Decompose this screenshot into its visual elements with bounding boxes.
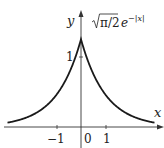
formula-label: π/2 e −|x|: [92, 14, 145, 30]
y-axis-label: y: [66, 13, 75, 28]
formula-sqrt-content: π/2: [100, 16, 120, 30]
x-tick-label-neg1: −1: [47, 132, 65, 146]
x-axis-arrow-icon: [157, 125, 164, 130]
formula-exp-power: −|x|: [128, 14, 145, 23]
x-tick-label-0: 0: [84, 132, 92, 146]
chart-canvas: y x 1 −1 0 1 π/2 e −|x|: [0, 0, 164, 148]
x-tick-label-1: 1: [103, 132, 111, 146]
y-tick-label-1: 1: [66, 50, 74, 64]
x-axis-label: x: [154, 105, 162, 120]
y-axis-arrow-icon: [79, 10, 84, 17]
